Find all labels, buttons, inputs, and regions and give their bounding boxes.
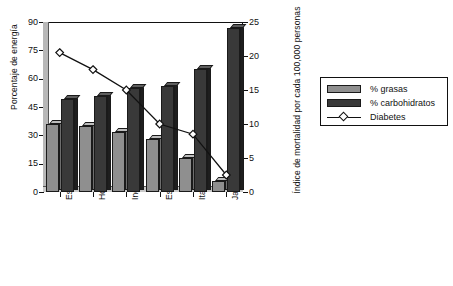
y-tick-label-right: 0 <box>249 188 269 197</box>
y-tick-label-right: 20 <box>249 52 269 61</box>
y-tick-label-right: 5 <box>249 154 269 163</box>
legend-swatch-grasas-icon <box>327 85 361 93</box>
x-tick <box>160 192 161 197</box>
x-tick <box>193 192 194 197</box>
y-tick-label-left: 45 <box>14 103 38 112</box>
y-tick-label-left: 60 <box>14 74 38 83</box>
y-tick-label-right: 10 <box>249 120 269 129</box>
y-tick-label-left: 30 <box>14 131 38 140</box>
y-tick-right <box>243 22 248 23</box>
y-tick-label-right: 25 <box>249 18 269 27</box>
chart-figure: Porcentaje de energía Índice de mortalid… <box>0 0 453 286</box>
diabetes-polyline <box>60 53 227 175</box>
y-tick-left <box>39 192 44 193</box>
diabetes-marker-1 <box>89 66 97 74</box>
y-tick-label-left: 75 <box>14 46 38 55</box>
y-tick-label-left: 0 <box>14 188 38 197</box>
diabetes-marker-0 <box>56 49 64 57</box>
x-tick <box>93 192 94 197</box>
legend-item-grasas: % grasas <box>327 82 447 96</box>
legend-line-diabetes-icon <box>327 113 361 121</box>
legend-item-carbohidratos: % carbohidratos <box>327 96 447 110</box>
legend-label-diabetes: Diabetes <box>370 112 406 122</box>
x-tick <box>226 192 227 197</box>
y-tick-label-left: 15 <box>14 159 38 168</box>
legend-label-carbohidratos: % carbohidratos <box>370 98 435 108</box>
legend-item-diabetes: Diabetes <box>327 110 447 124</box>
y-tick-label-left: 90 <box>14 18 38 27</box>
y-tick-right <box>243 192 248 193</box>
chart-legend: % grasas % carbohidratos Diabetes <box>320 77 448 126</box>
legend-label-grasas: % grasas <box>370 84 408 94</box>
diabetes-line-series <box>43 22 243 192</box>
legend-swatch-carbohidratos-icon <box>327 99 361 107</box>
x-tick <box>60 192 61 197</box>
x-tick <box>126 192 127 197</box>
y-tick-label-right: 15 <box>249 86 269 95</box>
